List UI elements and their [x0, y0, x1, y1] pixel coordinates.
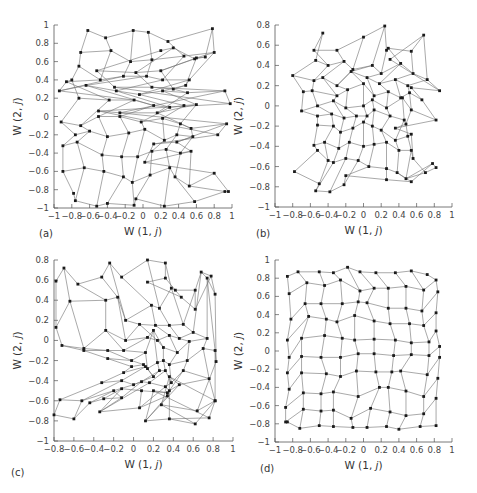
weight-node	[158, 307, 161, 310]
weight-node	[132, 383, 135, 386]
y-tick-label: −0.4	[249, 382, 270, 392]
weight-node	[387, 90, 390, 93]
y-tick-label: −0.8	[249, 182, 270, 192]
weight-node	[390, 371, 393, 374]
weight-node	[394, 271, 397, 274]
y-tick-label: 1	[44, 20, 49, 30]
weight-node	[316, 115, 319, 118]
weight-node	[190, 127, 193, 130]
weight-node	[357, 300, 360, 303]
weight-node	[143, 161, 146, 164]
lattice-nodes	[58, 27, 232, 207]
weight-node	[398, 149, 401, 152]
weight-node	[394, 127, 397, 130]
panel-d: −1−0.8−0.6−0.4−0.200.20.40.60.81−1−0.8−0…	[238, 246, 476, 492]
weight-node	[97, 110, 100, 113]
weight-node	[385, 425, 388, 428]
weight-node	[110, 49, 113, 52]
y-tick-label: 0	[265, 346, 270, 356]
weight-node	[348, 141, 351, 144]
weight-node	[104, 36, 107, 39]
weight-node	[394, 139, 397, 142]
weight-node	[196, 409, 199, 412]
x-tick-label: 1	[449, 445, 454, 455]
weight-node	[162, 346, 165, 349]
weight-node	[80, 399, 83, 402]
weight-node	[156, 361, 159, 364]
x-tick-label: −0.2	[335, 445, 356, 455]
x-axis-label: W (1, j)	[344, 459, 382, 471]
weight-node	[146, 259, 149, 262]
weight-node	[314, 189, 317, 192]
x-tick-label: −0.2	[115, 211, 136, 221]
weight-node	[166, 391, 169, 394]
weight-node	[332, 161, 335, 164]
weight-node	[288, 356, 291, 359]
weight-node	[314, 59, 317, 62]
weight-node	[60, 121, 63, 124]
weight-node	[133, 204, 136, 207]
weight-node	[100, 276, 103, 279]
weight-node	[405, 390, 408, 393]
weight-node	[362, 121, 365, 124]
x-tick-label: 0.8	[428, 210, 442, 220]
weight-node	[129, 60, 132, 63]
y-tick-label: 0	[44, 335, 49, 345]
weight-node	[140, 380, 143, 383]
weight-node	[76, 283, 79, 286]
weight-node	[410, 50, 413, 53]
weight-node	[343, 60, 346, 63]
weight-node	[132, 29, 135, 32]
weight-node	[146, 336, 149, 339]
weight-node	[339, 356, 342, 359]
weight-node	[362, 145, 365, 148]
weight-node	[186, 91, 189, 94]
weight-node	[300, 371, 303, 374]
weight-node	[435, 330, 438, 333]
x-tick-label: −0.4	[83, 444, 104, 454]
weight-node	[408, 322, 411, 325]
weight-node	[373, 320, 376, 323]
y-tick-label: 1	[265, 255, 270, 265]
weight-node	[325, 318, 328, 321]
weight-node	[405, 414, 408, 417]
weight-node	[426, 373, 429, 376]
weight-node	[422, 34, 425, 37]
weight-node	[188, 79, 191, 82]
weight-node	[424, 171, 427, 174]
weight-node	[79, 51, 82, 54]
weight-node	[320, 356, 323, 359]
panel-label-a: (a)	[39, 228, 53, 239]
weight-node	[76, 141, 79, 144]
y-tick-label: −0.4	[249, 141, 270, 151]
weight-node	[163, 205, 166, 208]
y-tick-label: 0	[44, 112, 49, 122]
weight-node	[367, 165, 370, 168]
weight-node	[168, 417, 171, 420]
weight-node	[223, 190, 226, 193]
weight-node	[156, 111, 159, 114]
weight-node	[188, 185, 191, 188]
weight-node	[113, 86, 116, 89]
weight-node	[161, 89, 164, 92]
weight-node	[366, 76, 369, 79]
weight-node	[412, 72, 415, 75]
weight-node	[120, 276, 123, 279]
weight-node	[150, 304, 153, 307]
weight-node	[362, 36, 365, 39]
weight-node	[401, 96, 404, 99]
weight-node	[435, 424, 438, 427]
weight-node	[62, 170, 65, 173]
weight-node	[380, 129, 383, 132]
weight-node	[336, 49, 339, 52]
weight-node	[332, 125, 335, 128]
weight-node	[366, 115, 369, 118]
weight-node	[366, 426, 369, 429]
weight-node	[99, 79, 102, 82]
weight-node	[313, 144, 316, 147]
weight-node	[213, 51, 216, 54]
weight-node	[108, 99, 111, 102]
y-tick-label: 0.8	[256, 273, 270, 283]
x-tick-label: −0.2	[103, 444, 124, 454]
weight-node	[394, 339, 397, 342]
